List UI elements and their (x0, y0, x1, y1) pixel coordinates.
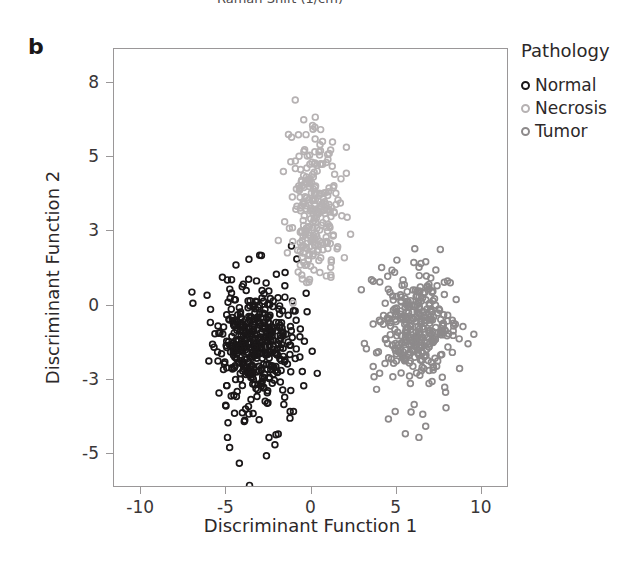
scatter-point (411, 260, 417, 266)
scatter-point (358, 287, 364, 293)
scatter-point (282, 219, 288, 225)
scatter-point (441, 292, 447, 298)
scatter-point (370, 321, 376, 327)
scatter-point (254, 394, 260, 400)
scatter-point (387, 332, 393, 338)
scatter-point (282, 294, 288, 300)
scatter-point (374, 386, 380, 392)
scatter-point (293, 317, 299, 323)
scatter-point (445, 344, 451, 350)
scatter-point (233, 262, 239, 268)
scatter-point (293, 346, 299, 352)
scatter-point (398, 370, 404, 376)
scatter-point (412, 246, 418, 252)
scatter-point (254, 278, 260, 284)
scatter-points-layer (114, 49, 507, 486)
x-tick-mark (311, 487, 312, 494)
scatter-point (309, 348, 315, 354)
scatter-point (423, 423, 429, 429)
scatter-point (289, 335, 295, 341)
scatter-point (285, 312, 291, 318)
scatter-point (465, 341, 471, 347)
y-tick-mark (106, 82, 113, 83)
scatter-point (287, 415, 293, 421)
y-axis-title: Discriminant Function 2 (42, 138, 63, 418)
scatter-point (416, 434, 422, 440)
scatter-point (304, 309, 310, 315)
scatter-point (228, 306, 234, 312)
y-tick-label: -5 (67, 445, 99, 462)
scatter-point (385, 273, 391, 279)
legend-items: NormalNecrosisTumor (521, 74, 634, 143)
y-tick-label: 0 (67, 296, 99, 313)
scatter-point (382, 300, 388, 306)
legend-marker-icon (521, 81, 530, 90)
scatter-point (437, 247, 443, 253)
y-tick-label: 5 (67, 148, 99, 165)
scatter-point (364, 346, 370, 352)
scatter-point (289, 194, 295, 200)
scatter-point (297, 334, 303, 340)
scatter-point (450, 350, 456, 356)
scatter-point (343, 170, 349, 176)
scatter-point (216, 390, 222, 396)
scatter-point (416, 273, 422, 279)
panel-label: b (28, 36, 44, 58)
scatter-point (371, 374, 377, 380)
scatter-point (288, 369, 294, 375)
scatter-point (394, 257, 400, 263)
scatter-point (236, 460, 242, 466)
y-tick-mark (106, 379, 113, 380)
scatter-point (288, 388, 294, 394)
scatter-point (348, 231, 354, 237)
x-tick-label: -5 (217, 499, 234, 516)
scatter-point (280, 387, 286, 393)
scatter-point (190, 300, 196, 306)
y-tick-label: -3 (67, 370, 99, 387)
x-axis-title: Discriminant Function 1 (113, 515, 508, 536)
legend-marker-icon (521, 104, 530, 113)
scatter-point (314, 370, 320, 376)
scatter-point (282, 283, 288, 289)
scatter-point (433, 267, 439, 273)
scatter-point (471, 331, 477, 337)
scatter-point (292, 97, 298, 103)
scatter-point (460, 324, 466, 330)
scatter-point (317, 270, 323, 276)
scatter-point (404, 289, 410, 295)
legend-item-tumor[interactable]: Tumor (521, 120, 634, 143)
scatter-point (273, 271, 279, 277)
scatter-series-normal (189, 243, 320, 486)
x-tick-mark (481, 487, 482, 494)
x-tick-mark (396, 487, 397, 494)
scatter-point (266, 435, 272, 441)
scatter-point (390, 374, 396, 380)
legend-item-normal[interactable]: Normal (521, 74, 634, 97)
scatter-point (392, 409, 398, 415)
scatter-point (263, 280, 269, 286)
legend-item-label: Normal (535, 77, 597, 94)
scatter-series-tumor (358, 246, 476, 440)
scatter-point (275, 295, 281, 301)
scatter-point (333, 190, 339, 196)
cropped-header-text: Raman Shift (1/cm) (150, 0, 410, 9)
y-tick-label: 8 (67, 74, 99, 91)
scatter-point (287, 352, 293, 358)
scatter-point (204, 292, 210, 298)
y-tick-label: 3 (67, 222, 99, 239)
scatter-point (225, 434, 231, 440)
scatter-point (208, 306, 214, 312)
legend-item-necrosis[interactable]: Necrosis (521, 97, 634, 120)
scatter-point (344, 144, 350, 150)
scatter-point (296, 132, 302, 138)
scatter-point (297, 326, 303, 332)
legend-marker-icon (521, 127, 530, 136)
y-tick-mark (106, 305, 113, 306)
scatter-point (420, 411, 426, 417)
scatter-point (329, 163, 335, 169)
scatter-point (407, 373, 413, 379)
scatter-point (411, 402, 417, 408)
scatter-point (281, 402, 287, 408)
scatter-point (382, 361, 388, 367)
scatter-point (370, 364, 376, 370)
